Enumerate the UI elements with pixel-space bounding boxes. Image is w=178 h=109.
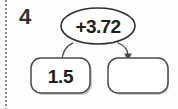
input-box-value: 1.5 (48, 66, 74, 87)
output-box[interactable] (108, 58, 168, 93)
function-machine-diagram: +3.72 1.5 (0, 0, 178, 109)
worksheet-page: 4 +3.72 1.5 (0, 0, 178, 109)
arrow-operation-to-output (118, 43, 128, 55)
operation-label: +3.72 (75, 16, 120, 37)
